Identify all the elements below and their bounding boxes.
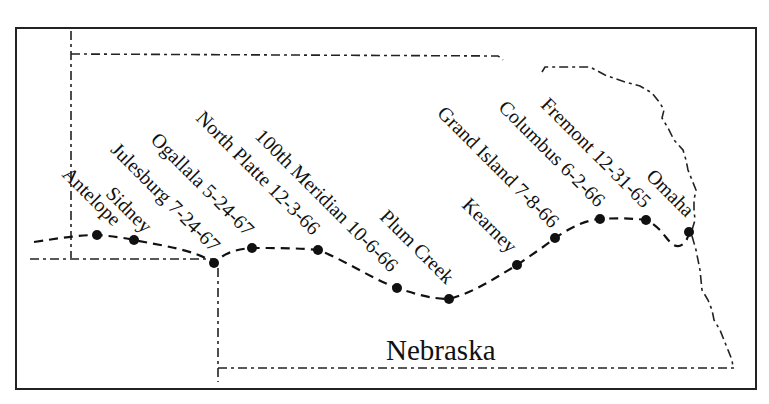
station-dot-sidney	[129, 235, 139, 245]
railroad-route-map: Antelope Sidney Julesburg 7-24-67 Ogalla…	[0, 0, 769, 404]
station-dot-columbus	[595, 214, 605, 224]
border-north	[71, 54, 503, 60]
station-dot-grand-island	[550, 233, 560, 243]
station-dot-antelope	[92, 230, 102, 240]
label-kearney: Kearney	[458, 193, 522, 257]
state-label: Nebraska	[386, 334, 496, 366]
border-east	[692, 236, 733, 367]
station-dot-north-platte	[313, 245, 323, 255]
label-grand-island: Grand Island 7-8-66	[433, 102, 563, 232]
station-dot-fremont	[641, 215, 651, 225]
station-dot-100th-meridian	[392, 283, 402, 293]
station-dot-plum-creek	[444, 294, 454, 304]
station-dot-kearney	[512, 260, 522, 270]
station-dot-julesburg	[209, 258, 219, 268]
station-dot-omaha	[684, 227, 694, 237]
station-dot-ogallala	[247, 243, 257, 253]
